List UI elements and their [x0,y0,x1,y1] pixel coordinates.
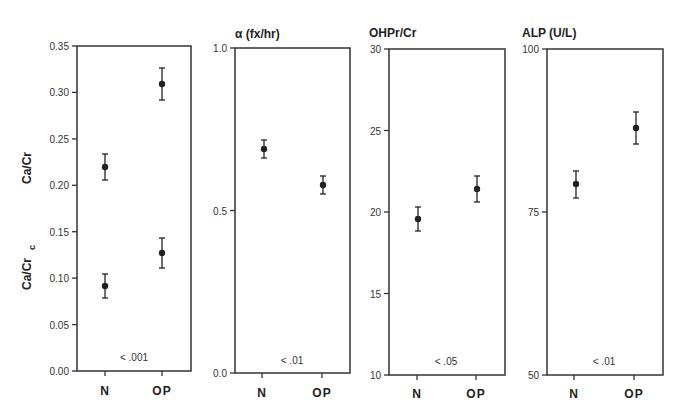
data-point-op-ca-cr [159,68,165,100]
y-tick-label: 0.20 [50,180,70,191]
y-tick-label: 0.15 [50,227,70,238]
x-axis: N OP [569,375,644,401]
y-tick-label: 0.35 [50,41,70,52]
y-axis: 100 75 50 [522,44,547,381]
y-tick-label: 75 [528,207,540,218]
x-category-n: N [569,387,579,401]
y-tick-label: 10 [370,370,382,381]
p-value-annotation: < .001 [120,352,149,363]
y-tick-label: 0.05 [50,320,70,331]
plot-frame [77,46,191,371]
panel-ohpr-cr: OHPr/Cr 30 25 20 15 10 N OP [369,26,505,401]
x-category-n: N [257,386,267,400]
x-category-n: N [412,387,422,401]
plot-frame [389,49,505,375]
y-tick-label: 15 [370,289,382,300]
p-value-annotation: < .01 [593,356,616,367]
x-category-n: N [100,384,110,398]
p-value-annotation: < .01 [281,355,304,366]
y-axis: 1.0 0.5 0.0 [213,43,235,379]
svg-text:c: c [27,245,37,250]
y-axis-label-ca-cr: Ca/Cr [20,152,34,184]
panel-ca-cr: 0.35 0.30 0.25 0.20 0.15 0.10 0.05 0.00 … [20,41,191,398]
data-point-n [415,207,421,231]
y-tick-label: 0.30 [50,87,70,98]
y-tick-label: 0.10 [50,273,70,284]
y-tick-label: 25 [370,126,382,137]
data-point-n-ca-cr [102,154,108,180]
y-tick-label: 100 [522,44,539,55]
panel-alpha: α (fx/hr) 1.0 0.5 0.0 N OP < . [213,27,350,400]
panel-title: α (fx/hr) [235,27,280,41]
y-tick-label: 30 [370,44,382,55]
data-point-op [633,112,639,144]
y-tick-label: 0.00 [50,366,70,377]
y-axis-label-ca-cr-c: Ca/Cr c [20,245,37,290]
data-point-n-ca-cr-c [102,274,108,298]
y-tick-label: 1.0 [213,43,227,54]
panel-title: OHPr/Cr [369,26,417,40]
x-axis: N OP [257,373,332,400]
x-axis: N OP [412,375,486,401]
panel-title: ALP (U/L) [522,26,576,40]
p-value-annotation: < .05 [435,356,458,367]
x-category-op: OP [152,384,171,398]
data-point-op-ca-cr-c [159,238,165,268]
data-point-n [573,171,579,198]
y-tick-label: 50 [528,370,540,381]
data-point-n [261,140,267,158]
data-point-op [320,176,326,194]
plot-frame [547,49,663,375]
y-tick-label: 0.5 [213,206,227,217]
y-axis: 0.35 0.30 0.25 0.20 0.15 0.10 0.05 0.00 [50,41,77,377]
data-point-op [474,176,480,202]
plot-frame [235,48,350,373]
x-axis: N OP [100,371,172,398]
y-tick-label: 0.0 [213,368,227,379]
panel-alp: ALP (U/L) 100 75 50 N OP < .01 [522,26,663,401]
y-axis: 30 25 20 15 10 [370,44,389,381]
svg-text:Ca/Cr: Ca/Cr [20,258,34,290]
x-category-op: OP [466,387,485,401]
y-tick-label: 20 [370,207,382,218]
x-category-op: OP [624,387,643,401]
figure: 0.35 0.30 0.25 0.20 0.15 0.10 0.05 0.00 … [0,0,683,418]
y-tick-label: 0.25 [50,134,70,145]
x-category-op: OP [312,386,331,400]
